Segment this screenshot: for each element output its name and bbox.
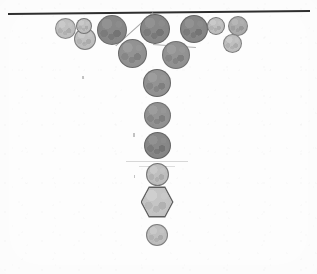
circle-particle (228, 16, 248, 36)
circle-particle (118, 39, 147, 68)
dust-speck (133, 133, 135, 137)
figure-canvas (0, 0, 317, 274)
circle-particle (55, 18, 76, 39)
circle-particle (76, 18, 92, 34)
circle-particle (143, 69, 171, 97)
circle-particle (162, 41, 190, 69)
circle-particle (223, 34, 242, 53)
circle-particle (146, 224, 168, 246)
circle-particle (144, 102, 171, 129)
circle-particle (146, 163, 169, 186)
circle-particle (97, 15, 127, 45)
circle-particle (140, 14, 170, 44)
circle-particle (180, 15, 208, 43)
circle-particle (207, 17, 225, 35)
dust-speck (82, 76, 84, 79)
dust-speck (134, 175, 135, 178)
circle-particle (144, 132, 171, 159)
hexagon-particle (141, 186, 174, 219)
